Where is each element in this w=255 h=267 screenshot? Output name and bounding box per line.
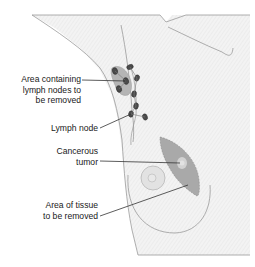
label-line: tumor	[56, 157, 98, 168]
label-line: Area containing	[21, 74, 81, 85]
label-tumor: Cancerous tumor	[56, 146, 98, 167]
nipple	[148, 174, 156, 182]
label-line: to be removed	[43, 211, 98, 222]
tumor-core	[180, 161, 185, 166]
label-lymph-node: Lymph node	[51, 123, 98, 134]
label-line: Lymph node	[51, 123, 98, 134]
label-tissue-area: Area of tissue to be removed	[43, 200, 98, 221]
label-lymph-area: Area containing lymph nodes to be remove…	[21, 74, 81, 106]
label-line: Cancerous	[56, 146, 98, 157]
label-line: lymph nodes to	[21, 85, 81, 96]
label-line: be removed	[21, 95, 81, 106]
label-line: Area of tissue	[43, 200, 98, 211]
breast-diagram	[0, 0, 255, 267]
